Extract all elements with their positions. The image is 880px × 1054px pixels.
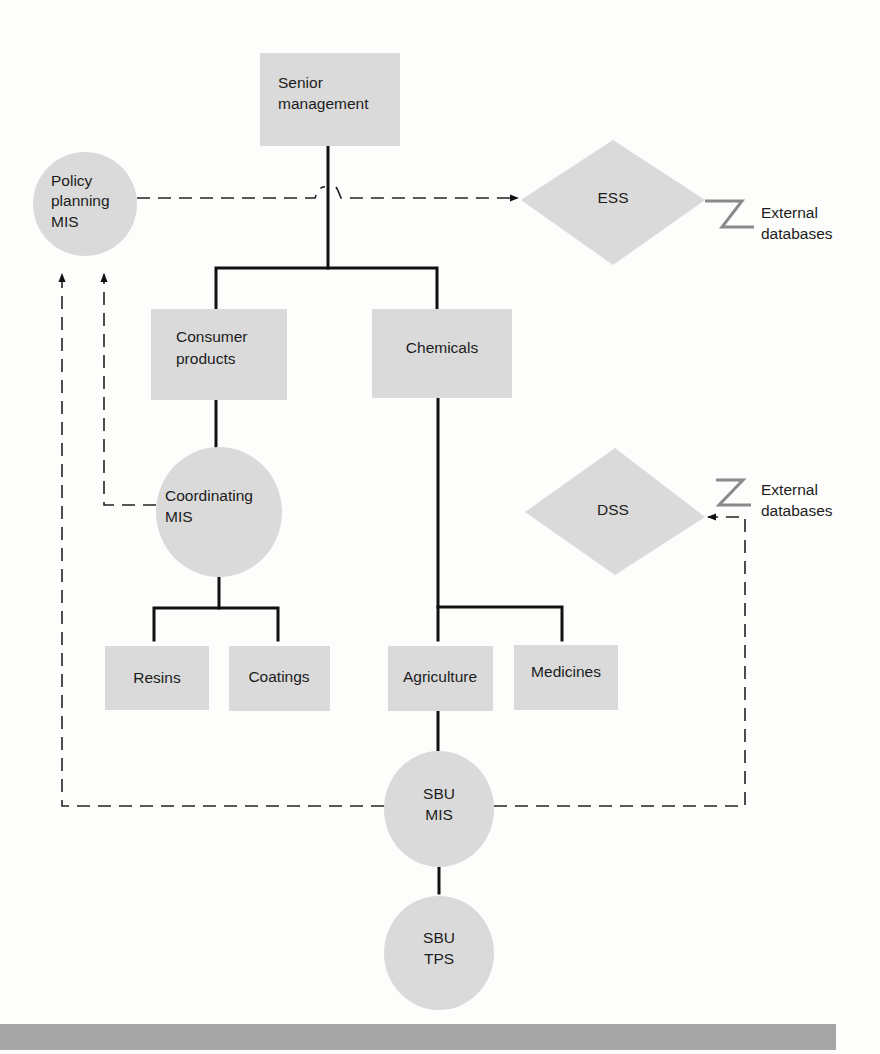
node-label: DSS bbox=[597, 501, 629, 518]
node-label: MIS bbox=[425, 806, 453, 823]
node-label: management bbox=[278, 95, 369, 112]
node-label: Consumer bbox=[176, 328, 248, 345]
node-coordinating-mis[interactable]: Coordinating MIS bbox=[156, 447, 282, 577]
node-label: TPS bbox=[424, 950, 454, 967]
node-label: planning bbox=[51, 192, 110, 209]
node-label: Coatings bbox=[248, 668, 309, 685]
node-sbu-tps[interactable]: SBU TPS bbox=[384, 896, 494, 1010]
footer-band bbox=[0, 1024, 836, 1050]
external-label: databases bbox=[761, 225, 833, 242]
org-mis-diagram: Senior management Policy planning MIS ES… bbox=[0, 0, 880, 1054]
z-link-icon bbox=[705, 201, 754, 227]
node-label: Medicines bbox=[531, 663, 601, 680]
node-medicines[interactable]: Medicines bbox=[514, 645, 618, 710]
node-chemicals[interactable]: Chemicals bbox=[372, 309, 512, 398]
node-label: SBU bbox=[423, 785, 455, 802]
node-policy-planning-mis[interactable]: Policy planning MIS bbox=[33, 152, 137, 256]
node-agriculture[interactable]: Agriculture bbox=[388, 646, 493, 711]
external-label: databases bbox=[761, 502, 833, 519]
node-label: SBU bbox=[423, 929, 455, 946]
node-label: ESS bbox=[597, 189, 628, 206]
node-label: MIS bbox=[51, 213, 79, 230]
node-label: Policy bbox=[51, 172, 93, 189]
node-coatings[interactable]: Coatings bbox=[229, 646, 330, 711]
external-label: External bbox=[761, 481, 818, 498]
external-databases-dss: External databases bbox=[716, 480, 833, 519]
node-sbu-mis[interactable]: SBU MIS bbox=[384, 751, 494, 867]
node-senior-management[interactable]: Senior management bbox=[260, 53, 400, 146]
node-label: Senior bbox=[278, 74, 323, 91]
node-ess[interactable]: ESS bbox=[521, 140, 705, 265]
node-consumer-products[interactable]: Consumer products bbox=[151, 309, 287, 400]
connector-senior-branch bbox=[216, 268, 437, 308]
node-dss[interactable]: DSS bbox=[525, 448, 705, 575]
connector-coordinating-branch bbox=[154, 608, 278, 640]
connector-chemicals-branch bbox=[438, 607, 562, 640]
node-label: Agriculture bbox=[403, 668, 477, 685]
node-resins[interactable]: Resins bbox=[105, 646, 209, 710]
node-label: Chemicals bbox=[406, 339, 479, 356]
node-label: Coordinating bbox=[165, 487, 253, 504]
node-label: MIS bbox=[165, 508, 193, 525]
z-link-icon bbox=[716, 480, 751, 505]
external-databases-ess: External databases bbox=[705, 201, 833, 242]
external-label: External bbox=[761, 204, 818, 221]
flow-coordinating-to-policy bbox=[104, 274, 156, 505]
node-label: Resins bbox=[133, 669, 181, 686]
node-label: products bbox=[176, 350, 236, 367]
